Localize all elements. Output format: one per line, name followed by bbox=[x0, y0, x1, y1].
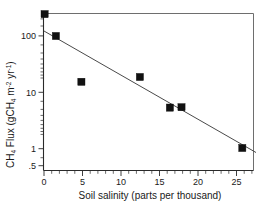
chart-figure: 100 10 1 .5 bbox=[0, 0, 269, 211]
y-tick-label-0point5: .5 bbox=[28, 161, 36, 171]
x-tick-label-15: 15 bbox=[154, 177, 164, 187]
x-tick-label-10: 10 bbox=[116, 177, 126, 187]
plot-background bbox=[0, 0, 269, 211]
y-axis-title-part-close: ) bbox=[5, 61, 16, 64]
data-point bbox=[78, 78, 85, 85]
data-point bbox=[52, 32, 59, 39]
data-point bbox=[41, 11, 48, 18]
y-tick-label-1: 1 bbox=[31, 144, 36, 154]
y-axis-title-part-m: m bbox=[5, 87, 16, 98]
methane-flux-vs-salinity-scatter-plot: 100 10 1 .5 bbox=[0, 0, 269, 211]
y-axis-title-part-ch: CH bbox=[5, 154, 16, 168]
y-tick-label-100: 100 bbox=[21, 31, 36, 41]
data-point bbox=[239, 144, 246, 151]
data-point bbox=[166, 104, 173, 111]
data-point bbox=[136, 73, 143, 80]
y-tick-label-10: 10 bbox=[26, 88, 36, 98]
x-tick-label-0: 0 bbox=[41, 177, 46, 187]
x-tick-label-5: 5 bbox=[80, 177, 85, 187]
y-axis-title-part-yr: yr bbox=[5, 70, 16, 82]
data-point bbox=[178, 104, 185, 111]
x-axis-title: Soil salinity (parts per thousand) bbox=[79, 190, 222, 201]
x-tick-label-25: 25 bbox=[231, 177, 241, 187]
y-axis-title-part-flux: Flux (gCH bbox=[5, 102, 16, 150]
x-tick-label-20: 20 bbox=[193, 177, 203, 187]
